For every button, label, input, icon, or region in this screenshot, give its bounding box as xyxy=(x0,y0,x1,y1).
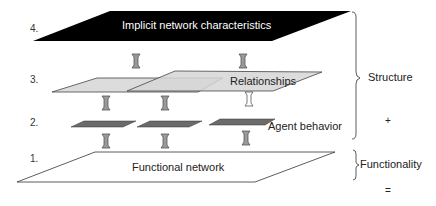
layer-2-plane-1 xyxy=(71,121,136,127)
arrow-2-1-middle xyxy=(161,134,169,148)
layer-1-label: Functional network xyxy=(132,162,224,173)
functionality-label: Functionality xyxy=(360,159,422,170)
layered-network-diagram: 4. 3. 2. 1. Implicit network characteris… xyxy=(0,0,436,206)
arrow-2-1-right xyxy=(242,131,250,145)
equals-operator: = xyxy=(385,186,391,196)
structure-label: Structure xyxy=(368,72,413,83)
layer-2-plane-3 xyxy=(209,119,275,125)
layer-2-plane-2 xyxy=(137,121,202,127)
arrow-4-3-left xyxy=(132,54,140,68)
layer-4-number: 4. xyxy=(30,24,38,34)
arrow-2-1-left xyxy=(102,134,110,148)
layer-3-number: 3. xyxy=(30,75,38,85)
arrow-3-2-right xyxy=(245,92,253,106)
functionality-brace xyxy=(353,150,359,180)
arrow-4-3-right xyxy=(239,54,247,68)
layer-2-label: Agent behavior xyxy=(268,121,342,132)
layer-2-number: 2. xyxy=(30,118,38,128)
arrow-3-2-middle xyxy=(161,96,169,110)
structure-brace xyxy=(352,12,360,139)
arrow-3-2-left xyxy=(102,96,110,110)
layer-3-label: Relationships xyxy=(230,76,296,87)
layer-4-label: Implicit network characteristics xyxy=(122,20,271,31)
layer-1-number: 1. xyxy=(30,154,38,164)
plus-operator: + xyxy=(385,116,391,126)
